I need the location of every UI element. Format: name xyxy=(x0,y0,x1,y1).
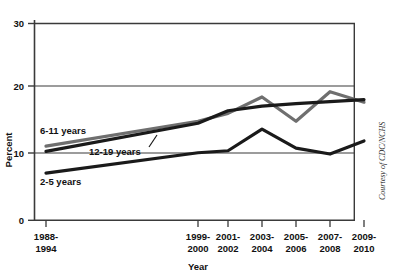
xtick-label-1-bottom: 2000 xyxy=(187,243,208,254)
xtick-label-4-bottom: 2006 xyxy=(285,243,306,254)
ytick-label-30: 30 xyxy=(13,18,24,29)
xtick-label-5-top: 2007- xyxy=(318,231,342,242)
y-axis-title: Percent xyxy=(3,132,14,168)
series-label-6-11-years: 6-11 years xyxy=(40,125,86,136)
chart-figure: 30 20 10 0 Percent 1988- 1994 1999- 2000… xyxy=(0,0,395,277)
credit-text: Courtesy of CDC/NCHS xyxy=(378,122,387,200)
xtick-label-3-bottom: 2004 xyxy=(251,243,273,254)
xtick-label-1-top: 1999- xyxy=(186,231,210,242)
xtick-label-4-top: 2005- xyxy=(284,231,308,242)
xtick-label-6-bottom: 2010 xyxy=(353,243,374,254)
xtick-label-0-bottom: 1994 xyxy=(35,243,57,254)
xtick-label-5-bottom: 2008 xyxy=(319,243,340,254)
xtick-label-2-top: 2001- xyxy=(216,231,240,242)
x-axis-title: Year xyxy=(188,261,208,272)
ytick-label-20: 20 xyxy=(13,81,24,92)
series-label-12-19-years: 12-19 years xyxy=(89,146,141,157)
xtick-label-2-bottom: 2002 xyxy=(217,243,238,254)
ytick-label-10: 10 xyxy=(13,148,24,159)
xtick-label-3-top: 2003- xyxy=(250,231,274,242)
series-label-2-5-years: 2-5 years xyxy=(40,176,81,187)
xtick-label-6-top: 2009- xyxy=(352,231,376,242)
x-tick-labels: 1988- 1994 1999- 2000 2001- 2002 2003- 2… xyxy=(34,231,376,254)
obesity-trend-line-chart: 30 20 10 0 Percent 1988- 1994 1999- 2000… xyxy=(0,0,395,277)
ytick-label-0: 0 xyxy=(19,215,24,226)
xtick-label-0-top: 1988- xyxy=(34,231,58,242)
